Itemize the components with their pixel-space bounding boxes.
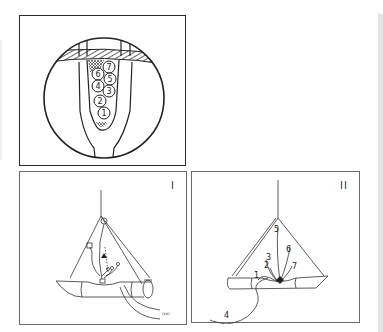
magnified-detail-drawing: 7 6 5 4 3 2 1 [20, 16, 187, 167]
line-label-1: 1 [254, 271, 259, 280]
cell-label-7: 7 [106, 63, 111, 72]
line-label-4: 4 [224, 311, 229, 320]
line-label-5: 5 [274, 225, 279, 234]
panel-magnified-detail: 7 6 5 4 3 2 1 [19, 15, 186, 166]
line-label-3: 3 [266, 253, 271, 262]
panel-i: I [19, 171, 187, 325]
page-edge-strip [378, 14, 383, 332]
page-edge-shadow [0, 40, 2, 160]
cell-label-1: 1 [101, 109, 106, 118]
panel-ii-drawing: 1 2 3 4 5 6 7 [192, 172, 361, 324]
cell-label-5: 5 [107, 75, 112, 84]
line-label-7: 7 [292, 262, 297, 271]
line-label-6: 6 [286, 245, 291, 254]
cell-label-6: 6 [95, 70, 100, 79]
cell-label-4: 4 [95, 82, 100, 91]
panel-i-drawing: (xx) [20, 172, 188, 326]
panel-ii: II 1 2 3 4 5 6 [191, 171, 360, 323]
panel-i-annotation: (xx) [162, 311, 170, 316]
cell-label-3: 3 [106, 87, 111, 96]
line-label-2: 2 [264, 261, 269, 270]
cell-label-2: 2 [97, 97, 102, 106]
